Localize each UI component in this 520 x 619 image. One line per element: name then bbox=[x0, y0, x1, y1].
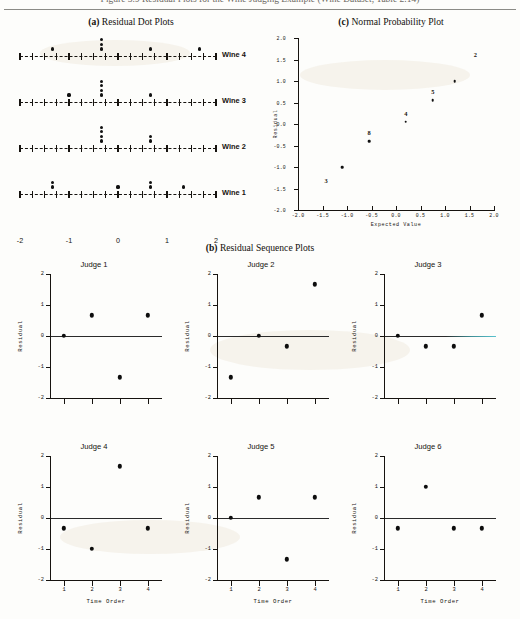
axis-tick bbox=[130, 191, 131, 198]
axis-tick bbox=[56, 191, 57, 198]
axis-tick bbox=[203, 191, 204, 198]
c-x-tick-label: -2.0 bbox=[292, 213, 305, 218]
subplot-x-tick bbox=[398, 399, 399, 404]
subplot-y-tick bbox=[380, 274, 385, 275]
axis-tick bbox=[179, 99, 180, 106]
c-x-tick bbox=[323, 206, 324, 211]
c-x-tick bbox=[421, 206, 422, 211]
subplot-zero-reference-line bbox=[50, 336, 162, 337]
axis-tick bbox=[44, 145, 45, 152]
dot-plot-point bbox=[100, 89, 103, 92]
subplot-x-tick bbox=[120, 581, 121, 586]
subplot-data-point bbox=[257, 334, 261, 338]
subplot-y-tick bbox=[380, 518, 385, 519]
subplot-x-tick-label: 3 bbox=[452, 587, 455, 593]
subplot-x-tick bbox=[92, 581, 93, 586]
sequence-subplot: Judge 3-2-1012Residual bbox=[342, 258, 514, 436]
c-y-tick bbox=[294, 103, 299, 104]
dot-plot-point bbox=[149, 181, 152, 184]
axis-tick bbox=[215, 53, 216, 60]
axis-tick bbox=[215, 191, 216, 198]
subplot-y-tick bbox=[46, 398, 51, 399]
subplot-y-tick bbox=[380, 487, 385, 488]
subplot-x-tick bbox=[64, 399, 65, 404]
dot-plot-point bbox=[116, 185, 119, 188]
dot-plot-point bbox=[198, 47, 201, 50]
subplot-x-tick bbox=[426, 399, 427, 404]
panel-b-title: (b) Residual Sequence Plots bbox=[0, 242, 520, 253]
c-y-tick bbox=[294, 38, 299, 39]
axis-tick bbox=[130, 99, 131, 106]
subplot-y-axis-title: Residual bbox=[351, 320, 358, 351]
subplot-y-tick bbox=[380, 305, 385, 306]
running-head-text: Figure 3.9 Residual Plots for the Wine J… bbox=[0, 0, 520, 4]
axis-tick bbox=[105, 53, 106, 60]
subplot-zero-reference-line bbox=[217, 336, 329, 337]
axis-tick bbox=[117, 191, 118, 198]
dot-plot-point bbox=[149, 47, 152, 50]
subplot-data-point bbox=[285, 557, 289, 561]
subplot-x-tick bbox=[231, 399, 232, 404]
subplot-y-tick bbox=[380, 549, 385, 550]
panel-b-name: Residual Sequence Plots bbox=[220, 242, 314, 253]
subplot-y-tick bbox=[46, 367, 51, 368]
panel-c-normal-probability-plot: -2.0-1.5-1.0-0.50.00.51.01.52.0-2.0-1.5-… bbox=[262, 28, 520, 228]
subplot-y-tick bbox=[213, 336, 218, 337]
subplot-zero-reference-line bbox=[217, 518, 329, 519]
subplot-x-tick bbox=[92, 399, 93, 404]
subplot-y-tick bbox=[213, 549, 218, 550]
dot-plot-point bbox=[100, 93, 103, 96]
c-x-tick-label: 0.5 bbox=[416, 213, 425, 218]
subplot-x-axis-line bbox=[50, 580, 162, 581]
dot-plot-row: Wine 4 bbox=[0, 30, 262, 76]
c-y-tick bbox=[294, 124, 299, 125]
subplot-y-tick bbox=[213, 398, 218, 399]
subplot-y-axis-title: Residual bbox=[17, 502, 24, 533]
subplot-x-tick bbox=[259, 399, 260, 404]
c-x-tick bbox=[347, 206, 348, 211]
sequence-subplot: Judge 2-2-1012Residual bbox=[175, 258, 347, 436]
axis-tick bbox=[142, 53, 143, 60]
axis-tick bbox=[56, 53, 57, 60]
subplot-x-tick bbox=[315, 399, 316, 404]
dot-plot-point bbox=[51, 47, 54, 50]
subplot-zero-reference-line bbox=[50, 518, 162, 519]
c-x-tick bbox=[298, 206, 299, 211]
subplot-x-tick bbox=[454, 581, 455, 586]
subplot-y-tick-label: 1 bbox=[201, 484, 211, 490]
subplot-y-axis-title: Residual bbox=[184, 502, 191, 533]
subplot-data-point bbox=[285, 344, 289, 348]
sequence-subplot-title: Judge 1 bbox=[8, 260, 180, 269]
subplot-data-point bbox=[90, 547, 94, 551]
subplot-data-point bbox=[229, 516, 233, 520]
subplot-data-point bbox=[90, 313, 94, 317]
axis-tick bbox=[166, 99, 167, 106]
axis-tick bbox=[32, 191, 33, 198]
subplot-y-tick bbox=[213, 518, 218, 519]
subplot-x-axis-title: Time Order bbox=[420, 598, 459, 605]
dot-plot-point bbox=[100, 43, 103, 46]
subplot-y-tick-label: 0 bbox=[201, 333, 211, 339]
subplot-y-tick bbox=[380, 580, 385, 581]
subplot-y-axis-title: Residual bbox=[351, 502, 358, 533]
axis-tick bbox=[32, 99, 33, 106]
subplot-y-tick-label: 1 bbox=[368, 302, 378, 308]
subplot-y-axis-title: Residual bbox=[17, 320, 24, 351]
subplot-y-tick bbox=[46, 518, 51, 519]
panel-a-label: (a) bbox=[88, 16, 99, 27]
subplot-y-tick bbox=[46, 274, 51, 275]
subplot-y-tick-label: -1 bbox=[201, 364, 211, 370]
axis-tick bbox=[68, 145, 69, 152]
dot-plot-point bbox=[100, 47, 103, 50]
sequence-subplot: Judge 1-2-1012Residual bbox=[8, 258, 180, 436]
subplot-x-tick bbox=[120, 399, 121, 404]
axis-tick bbox=[93, 145, 94, 152]
subplot-x-tick bbox=[426, 581, 427, 586]
c-data-point-label: 3 bbox=[324, 177, 327, 184]
subplot-x-axis-line bbox=[50, 398, 162, 399]
axis-tick bbox=[142, 145, 143, 152]
axis-tick bbox=[105, 145, 106, 152]
subplot-x-tick bbox=[231, 581, 232, 586]
subplot-y-tick bbox=[380, 456, 385, 457]
subplot-y-tick-label: 1 bbox=[34, 484, 44, 490]
